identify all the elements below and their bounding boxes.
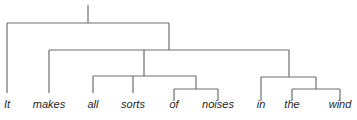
leaf-word-it: It xyxy=(4,98,10,111)
leaf-word-all: all xyxy=(87,98,98,111)
leaf-word-makes: makes xyxy=(33,98,65,111)
leaf-word-sorts: sorts xyxy=(121,98,145,111)
leaf-word-the: the xyxy=(284,98,299,111)
leaf-word-noises: noises xyxy=(202,98,234,111)
leaf-word-of: of xyxy=(169,98,178,111)
leaf-word-in: in xyxy=(257,98,266,111)
leaf-word-wind: wind xyxy=(329,98,352,111)
